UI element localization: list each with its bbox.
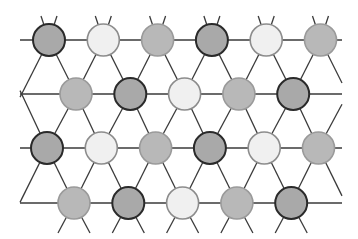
lattice-node-medium <box>223 78 255 110</box>
lattice-node-medium <box>221 187 253 219</box>
lattice-node-light <box>169 78 201 110</box>
lattice-node-medium <box>60 78 92 110</box>
lattice-node-medium <box>140 132 172 164</box>
lattice-node-dark <box>114 78 146 110</box>
lattice-node-light <box>248 132 280 164</box>
lattice-node-medium <box>303 132 335 164</box>
lattice-node-dark <box>277 78 309 110</box>
lattice-node-light <box>85 132 117 164</box>
lattice-node-dark <box>33 24 65 56</box>
lattice-node-dark <box>196 24 228 56</box>
lattice-node-medium <box>58 187 90 219</box>
lattice-node-light <box>250 24 282 56</box>
lattice-node-dark <box>275 187 307 219</box>
lattice-node-light <box>167 187 199 219</box>
lattice-node-medium <box>305 24 337 56</box>
triangular-lattice-diagram <box>0 0 358 239</box>
lattice-node-light <box>87 24 119 56</box>
lattice-node-medium <box>142 24 174 56</box>
lattice-node-dark <box>194 132 226 164</box>
lattice-nodes <box>31 24 337 219</box>
lattice-node-dark <box>112 187 144 219</box>
lattice-node-dark <box>31 132 63 164</box>
